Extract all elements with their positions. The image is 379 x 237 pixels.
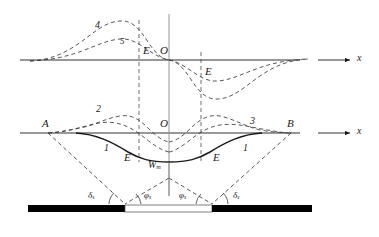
delta-left-arc (109, 193, 114, 204)
settlement-trough-left (76, 133, 169, 162)
curve-3-inner-right (169, 124, 291, 152)
label-curve-3: 3 (250, 116, 255, 126)
label-phi-right: φs (179, 191, 186, 201)
label-phi-left-subscript: s (149, 194, 151, 200)
curve-3-right (169, 116, 291, 142)
curve-2-left (48, 116, 169, 142)
diagram-svg (0, 0, 379, 237)
label-delta-left-subscript: s (92, 194, 94, 200)
label-phi-right-subscript: s (184, 194, 186, 200)
ground-bar-left (28, 205, 125, 212)
ground-bar-right (212, 205, 312, 212)
label-inflection-upper-right: E (205, 66, 212, 77)
label-point-B: B (287, 118, 294, 129)
curve-4-right (169, 59, 308, 99)
label-curve-1-left: 1 (104, 143, 109, 153)
label-curve-5: 5 (120, 37, 125, 46)
figure-canvas: 4 5 E O E x 2 A O 3 B 1 1 E E Wm x δs φs… (0, 0, 379, 237)
label-axis-x-lower: x (357, 126, 361, 136)
label-phi-left: φs (144, 191, 151, 201)
label-axis-x-upper: x (357, 53, 361, 63)
label-curve-1-right: 1 (243, 143, 248, 153)
label-inflection-lower-left: E (124, 152, 131, 163)
label-origin-upper: O (160, 45, 168, 56)
label-delta-right: δs (233, 191, 239, 201)
label-max-settlement: Wm (148, 160, 161, 170)
phi-left-arc (136, 194, 141, 204)
tunnel-opening (125, 205, 212, 212)
label-inflection-lower-right: E (213, 152, 220, 163)
delta-right-arc (223, 193, 228, 204)
label-max-settlement-subscript: m (156, 163, 160, 170)
label-curve-2: 2 (96, 104, 101, 114)
label-inflection-upper-left: E (143, 45, 150, 56)
label-delta-right-subscript: s (237, 194, 239, 200)
label-delta-left: δs (88, 191, 94, 201)
label-origin-lower: O (160, 118, 168, 129)
label-point-A: A (42, 118, 49, 129)
phi-right-arc (196, 194, 201, 204)
phi-right-ray (169, 178, 212, 204)
label-curve-4: 4 (95, 20, 100, 30)
